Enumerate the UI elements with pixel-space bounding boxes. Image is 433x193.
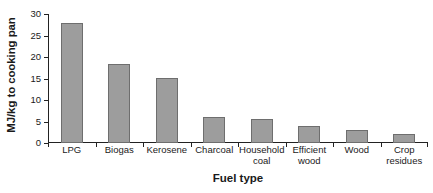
- bar: [61, 23, 83, 143]
- x-axis-category-labels: LPGBiogasKeroseneCharcoalHousehold coalE…: [48, 145, 428, 173]
- bar: [393, 134, 415, 143]
- plot-area: [48, 14, 428, 143]
- y-axis-tick-mark: [44, 122, 48, 123]
- y-axis-tick-label: 20: [30, 52, 41, 62]
- y-axis-tick-label: 10: [30, 95, 41, 105]
- x-axis-category-label: Crop residues: [381, 145, 429, 166]
- x-axis-title: Fuel type: [48, 172, 428, 184]
- x-axis-category-label: Efficient wood: [286, 145, 334, 166]
- y-axis-tick-label: 30: [30, 9, 41, 19]
- bar-chart: MJ/kg to cooking pan 051015202530 LPGBio…: [0, 0, 433, 193]
- y-axis-tick-labels: 051015202530: [22, 14, 44, 143]
- y-axis-tick-label: 15: [30, 74, 41, 84]
- y-axis-tick-mark: [44, 57, 48, 58]
- bar: [298, 126, 320, 143]
- y-axis-tick-mark: [44, 79, 48, 80]
- bar: [346, 130, 368, 143]
- y-axis-title: MJ/kg to cooking pan: [0, 0, 22, 150]
- bars-layer: [48, 14, 428, 143]
- y-axis-tick-label: 25: [30, 31, 41, 41]
- y-axis-title-text: MJ/kg to cooking pan: [5, 17, 17, 133]
- y-axis-tick-label: 5: [36, 117, 41, 127]
- y-axis-tick-mark: [44, 100, 48, 101]
- x-axis-category-label: Charcoal: [191, 145, 239, 156]
- x-axis-category-label: Kerosene: [143, 145, 191, 156]
- bar: [203, 117, 225, 143]
- y-axis-tick-mark: [44, 14, 48, 15]
- x-axis-category-label: Biogas: [96, 145, 144, 156]
- x-axis-category-label: LPG: [48, 145, 96, 156]
- x-axis-category-label: Wood: [333, 145, 381, 156]
- bar: [108, 64, 130, 143]
- x-axis-category-label: Household coal: [238, 145, 286, 166]
- bar: [251, 119, 273, 143]
- bar: [156, 78, 178, 143]
- y-axis-tick-mark: [44, 36, 48, 37]
- y-axis-tick-label: 0: [36, 138, 41, 148]
